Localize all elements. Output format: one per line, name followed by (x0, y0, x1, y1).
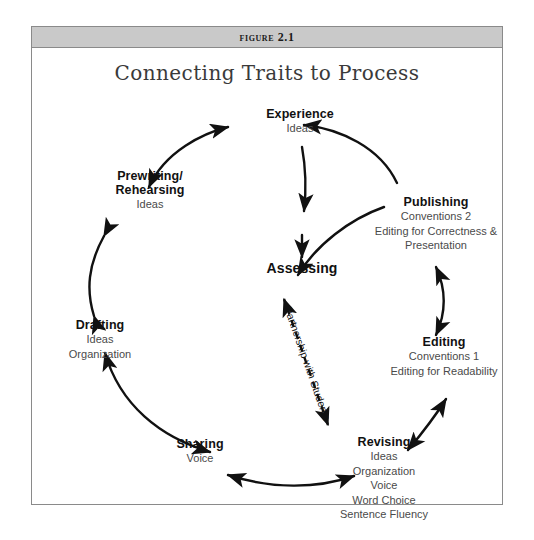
node-publishing-trait-presentation: Presentation (375, 239, 497, 253)
node-publishing-trait-conventions: Conventions 2 (375, 210, 497, 224)
node-sharing[interactable]: Sharing Voice (176, 437, 223, 466)
node-editing-trait-conventions: Conventions 1 (390, 350, 497, 364)
node-drafting-trait-ideas: Ideas (69, 333, 131, 347)
node-revising-trait-word-choice: Word Choice (340, 494, 428, 508)
node-prewriting-title-line2: Rehearsing (115, 183, 184, 197)
node-experience[interactable]: Experience Ideas (266, 107, 334, 136)
node-publishing[interactable]: Publishing Conventions 2 Editing for Cor… (375, 195, 497, 253)
figure-number-label: Figure 2.1 (239, 30, 294, 45)
node-drafting-trait-organization: Organization (69, 348, 131, 362)
node-editing[interactable]: Editing Conventions 1 Editing for Readab… (390, 335, 497, 378)
node-experience-traits: Ideas (266, 122, 334, 136)
node-assessing-title: Assessing (267, 261, 338, 275)
figure-header-bar: Figure 2.1 (32, 27, 502, 48)
node-prewriting[interactable]: Prewriting/ Rehearsing Ideas (115, 169, 184, 212)
node-sharing-title: Sharing (176, 437, 223, 451)
node-assessing[interactable]: Assessing (267, 261, 338, 275)
node-revising-title: Revising (340, 435, 428, 449)
figure-title: Connecting Traits to Process (32, 61, 502, 85)
node-publishing-title: Publishing (375, 195, 497, 209)
node-revising-trait-sentence-fluency: Sentence Fluency (340, 508, 428, 522)
node-prewriting-traits: Ideas (115, 198, 184, 212)
node-revising[interactable]: Revising Ideas Organization Voice Word C… (340, 435, 428, 522)
node-revising-trait-ideas: Ideas (340, 450, 428, 464)
node-experience-title: Experience (266, 107, 334, 121)
figure-frame: Figure 2.1 Connecting Traits to Process (31, 26, 503, 505)
node-prewriting-title-line1: Prewriting/ (115, 169, 184, 183)
node-publishing-trait-correctness: Editing for Correctness & (375, 225, 497, 239)
node-editing-trait-readability: Editing for Readability (390, 365, 497, 379)
node-sharing-traits: Voice (176, 452, 223, 466)
node-drafting-title: Drafting (69, 318, 131, 332)
node-revising-trait-voice: Voice (340, 479, 428, 493)
node-drafting[interactable]: Drafting Ideas Organization (69, 318, 131, 361)
node-editing-title: Editing (390, 335, 497, 349)
node-revising-trait-organization: Organization (340, 465, 428, 479)
diagram-body: Experience Ideas Prewriting/ Rehearsing … (32, 85, 502, 505)
diagram-arrows (32, 85, 502, 540)
